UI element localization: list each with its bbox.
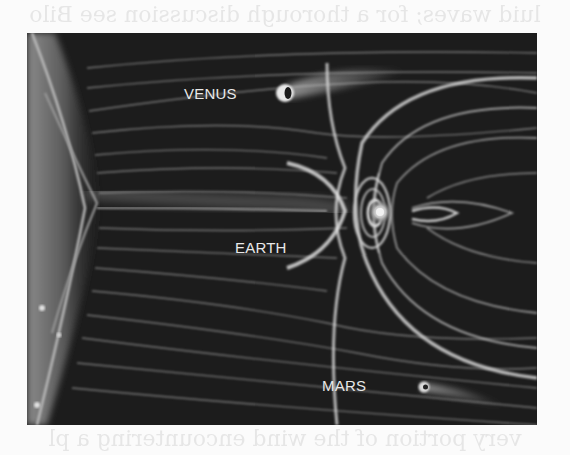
- solar-wind-figure: VENUS EARTH MARS: [27, 33, 537, 425]
- bleed-through-text-bottom: very portion of the wind encountering a …: [0, 426, 570, 452]
- earth-planet-icon: [368, 200, 392, 224]
- mars-label: MARS: [322, 377, 366, 394]
- solar-wind-field-lines: [72, 52, 537, 425]
- mars-planet-icon: [419, 382, 508, 409]
- bow-shock: [287, 63, 345, 425]
- sun-limb-icon: [27, 33, 102, 425]
- solar-wind-illustration: [27, 33, 537, 425]
- earth-label: EARTH: [235, 239, 287, 256]
- venus-label: VENUS: [184, 85, 237, 102]
- bleed-through-text-top: luid waves; for a thorough discussion se…: [0, 2, 570, 28]
